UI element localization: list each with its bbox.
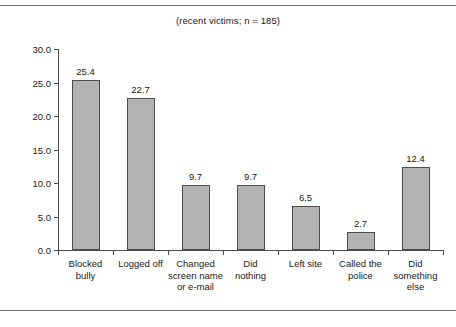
category-label-line: Logged off bbox=[113, 258, 168, 270]
bar-value-label: 22.7 bbox=[131, 84, 150, 95]
x-axis-category-label: Didnothing bbox=[223, 258, 278, 281]
bar bbox=[182, 185, 210, 250]
x-axis-tick bbox=[113, 250, 114, 255]
bar bbox=[127, 98, 155, 250]
bar-slot: 6.5 bbox=[278, 49, 333, 250]
category-label-line: police bbox=[333, 270, 388, 282]
chart-subtitle: (recent victims; n = 185) bbox=[0, 15, 456, 26]
y-axis-tick-label: 25.0 bbox=[33, 77, 52, 88]
bar-slot: 2.7 bbox=[333, 49, 388, 250]
x-axis-tick bbox=[443, 250, 444, 255]
bar bbox=[72, 80, 100, 250]
bar bbox=[237, 185, 265, 250]
bar-slot: 9.7 bbox=[168, 49, 223, 250]
category-label-line: bully bbox=[58, 270, 113, 282]
plot-area: 0.05.010.015.020.025.030.0 25.422.79.79.… bbox=[58, 49, 443, 250]
figure-bottom-rule bbox=[0, 310, 456, 311]
bar-value-label: 9.7 bbox=[244, 171, 257, 182]
bar bbox=[347, 232, 375, 250]
y-axis-tick-label: 5.0 bbox=[38, 211, 51, 222]
category-label-line: Did bbox=[388, 258, 443, 270]
bar-value-label: 6.5 bbox=[299, 192, 312, 203]
bar-slot: 22.7 bbox=[113, 49, 168, 250]
x-axis-tick bbox=[58, 250, 59, 255]
category-label-line: Did bbox=[223, 258, 278, 270]
bar-value-label: 12.4 bbox=[406, 153, 425, 164]
x-axis-tick bbox=[333, 250, 334, 255]
y-axis-tick-label: 10.0 bbox=[33, 178, 52, 189]
bar bbox=[292, 206, 320, 250]
bar-value-label: 9.7 bbox=[189, 171, 202, 182]
y-axis-tick-label: 20.0 bbox=[33, 111, 52, 122]
category-label-line: something bbox=[388, 270, 443, 282]
x-axis-tick bbox=[168, 250, 169, 255]
bar-series: 25.422.79.79.76.52.712.4 bbox=[58, 49, 443, 250]
x-axis-category-label: Changedscreen nameor e-mail bbox=[168, 258, 223, 293]
bar-value-label: 25.4 bbox=[76, 66, 95, 77]
bar bbox=[402, 167, 430, 250]
category-label-line: Left site bbox=[278, 258, 333, 270]
category-label-line: screen name bbox=[168, 270, 223, 282]
x-axis-tick bbox=[278, 250, 279, 255]
bar-value-label: 2.7 bbox=[354, 218, 367, 229]
category-label-line: or e-mail bbox=[168, 281, 223, 293]
x-axis-category-label: Left site bbox=[278, 258, 333, 270]
y-axis-tick-label: 15.0 bbox=[33, 144, 52, 155]
bar-slot: 25.4 bbox=[58, 49, 113, 250]
bar-slot: 9.7 bbox=[223, 49, 278, 250]
x-axis-tick bbox=[388, 250, 389, 255]
figure-top-rule bbox=[0, 5, 456, 6]
x-axis-category-label: Blockedbully bbox=[58, 258, 113, 281]
category-label-line: Blocked bbox=[58, 258, 113, 270]
category-label-line: nothing bbox=[223, 270, 278, 282]
bar-slot: 12.4 bbox=[388, 49, 443, 250]
category-label-line: else bbox=[388, 281, 443, 293]
x-axis-category-label: Didsomethingelse bbox=[388, 258, 443, 293]
category-label-line: Changed bbox=[168, 258, 223, 270]
x-axis-category-label: Logged off bbox=[113, 258, 168, 270]
x-axis-category-label: Called thepolice bbox=[333, 258, 388, 281]
category-label-line: Called the bbox=[333, 258, 388, 270]
x-axis-line bbox=[58, 250, 443, 251]
y-axis-tick-label: 0.0 bbox=[38, 245, 51, 256]
x-axis-tick bbox=[223, 250, 224, 255]
x-axis-category-labels: BlockedbullyLogged offChangedscreen name… bbox=[58, 258, 443, 308]
y-axis-tick-label: 30.0 bbox=[33, 44, 52, 55]
